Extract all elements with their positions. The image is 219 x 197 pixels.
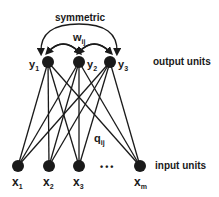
y2-label: y2 bbox=[87, 58, 97, 72]
input-units-label: input units bbox=[155, 160, 207, 171]
symmetric-label: symmetric bbox=[55, 12, 105, 23]
input-nodes bbox=[12, 160, 146, 172]
xm-label: xm bbox=[134, 175, 147, 190]
w-weight-label: wij bbox=[72, 31, 86, 46]
output-nodes bbox=[42, 56, 116, 68]
output-node-y3 bbox=[104, 56, 116, 68]
input-node-x1 bbox=[12, 160, 24, 172]
x3-label: x3 bbox=[73, 175, 84, 190]
y3-label: y3 bbox=[118, 58, 128, 72]
q-connections bbox=[18, 62, 140, 166]
input-node-x3 bbox=[73, 160, 85, 172]
y1-label: y1 bbox=[29, 58, 39, 72]
ellipsis: ••• bbox=[100, 162, 115, 172]
q-weight-label: qij bbox=[94, 132, 105, 147]
x2-label: x2 bbox=[43, 175, 54, 190]
output-node-y2 bbox=[73, 56, 85, 68]
output-node-y1 bbox=[42, 56, 54, 68]
input-node-x2 bbox=[43, 160, 55, 172]
output-units-label: output units bbox=[153, 56, 211, 67]
network-diagram: symmetric wij y1 y2 y3 output units qij … bbox=[0, 0, 219, 197]
x1-label: x1 bbox=[12, 175, 23, 190]
input-node-xm bbox=[134, 160, 146, 172]
